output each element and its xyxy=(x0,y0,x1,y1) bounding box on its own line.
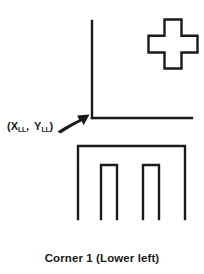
figure-caption: Corner 1 (Lower left) xyxy=(0,252,204,264)
cross-outline xyxy=(149,20,198,69)
coordinate-label: (XLL, YLL) xyxy=(7,121,53,132)
coordinate-x-subscript: LL xyxy=(18,126,26,133)
cross-outline-path xyxy=(149,20,198,69)
arrow-body xyxy=(58,115,90,134)
coordinate-x-symbol: X xyxy=(11,120,18,132)
coordinate-y-subscript: LL xyxy=(41,126,49,133)
castellated-outline xyxy=(78,146,185,219)
coordinate-close-paren: ) xyxy=(49,120,53,132)
figure-root: (XLL, YLL) Corner 1 (Lower left) xyxy=(0,0,204,274)
pointer-arrow xyxy=(58,115,90,134)
castellated-outline-path xyxy=(78,146,185,219)
diagram-canvas xyxy=(0,0,204,274)
coordinate-separator: , xyxy=(26,120,34,132)
